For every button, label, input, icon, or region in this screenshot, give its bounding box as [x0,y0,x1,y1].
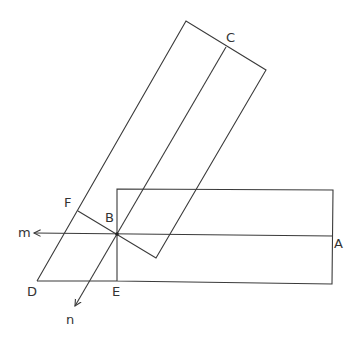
label-d: D [27,285,37,298]
label-c: C [226,31,235,44]
diagram-svg [0,0,361,343]
label-m: m [18,226,31,239]
tilted-rectangle [37,21,266,281]
point-b [115,232,119,236]
geometry-diagram: C F B m A D E n [0,0,361,343]
label-b: B [105,211,114,224]
label-f: F [64,196,71,209]
label-e: E [112,285,120,298]
label-a: A [334,237,343,250]
line-am [34,233,333,236]
label-n: n [66,313,74,326]
